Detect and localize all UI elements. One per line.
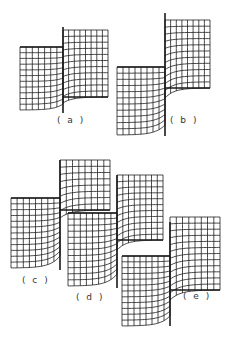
panel-label-c: ( c )	[22, 275, 50, 285]
panel-label-e: ( e )	[183, 291, 211, 301]
panel-label-b: ( b )	[170, 115, 198, 125]
panel-a-right-block	[63, 30, 108, 103]
grid-line	[60, 210, 110, 218]
grid-line	[117, 240, 163, 250]
deformed-grid-figure	[0, 0, 234, 337]
panel-label-d: ( d )	[76, 292, 104, 302]
panel-a-left-block	[20, 47, 63, 110]
grid-line	[165, 88, 210, 98]
panel-e-left-block	[122, 256, 170, 326]
panel-d-left-block	[68, 213, 117, 286]
panel-b-left-block	[117, 67, 165, 135]
panel-c-left-block	[11, 198, 60, 268]
panel-label-a: ( a )	[57, 115, 85, 125]
panel-d-right-block	[117, 175, 163, 250]
grid-line	[63, 97, 108, 103]
panel-b-right-block	[165, 20, 210, 98]
panel-e-right-block	[170, 217, 220, 300]
